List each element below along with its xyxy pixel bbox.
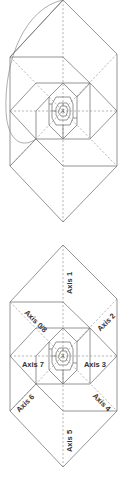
axis-label-0-8: Axis 0/8 (23, 308, 49, 334)
top-diagram: A (6, 0, 117, 222)
axis-label-5: Axis 5 (65, 430, 74, 452)
diagram-canvas: A A Axis 1 Axis 0/8 Axis 2 Axis 7 Axis 3… (0, 0, 129, 485)
axis-label-2: Axis 2 (95, 311, 117, 333)
axis-label-6: Axis 6 (14, 392, 36, 414)
axis-label-1: Axis 1 (65, 272, 74, 294)
axis-label-3: Axis 3 (84, 360, 106, 369)
chord-line (10, 0, 63, 57)
center-mark: A (60, 108, 65, 114)
bottom-diagram: A Axis 1 Axis 0/8 Axis 2 Axis 7 Axis 3 A… (10, 245, 117, 467)
axis-label-7: Axis 7 (22, 360, 44, 369)
center-mark: A (60, 353, 65, 359)
axis-label-4: Axis 4 (91, 391, 114, 414)
